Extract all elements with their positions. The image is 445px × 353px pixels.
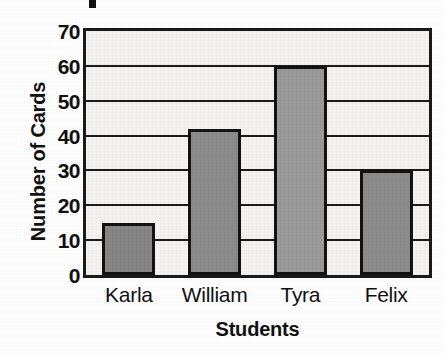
y-tick-label: 40: [34, 125, 80, 146]
bar-karla: [102, 223, 155, 275]
x-tick-label: Tyra: [281, 283, 321, 306]
x-axis-title: Students: [83, 318, 432, 341]
y-tick-label: 20: [34, 195, 80, 216]
bar-william: [188, 129, 241, 275]
y-axis-tick-labels: 010203040506070: [34, 28, 80, 278]
clipped-title-fragment: [89, 0, 96, 8]
gridline: [86, 100, 429, 102]
x-axis-tick-labels: KarlaWilliamTyraFelix: [83, 283, 432, 313]
x-tick-label: Felix: [365, 283, 408, 306]
y-tick-label: 60: [34, 55, 80, 76]
bar-tyra: [274, 66, 327, 275]
y-tick-label: 30: [34, 160, 80, 181]
y-tick-label: 0: [34, 265, 80, 286]
bar-felix: [360, 170, 413, 275]
y-tick-label: 50: [34, 90, 80, 111]
x-tick-label: William: [182, 283, 248, 306]
x-tick-label: Karla: [105, 283, 153, 306]
y-tick-label: 10: [34, 230, 80, 251]
gridline: [86, 65, 429, 67]
plot-inner: [86, 31, 429, 275]
gridline: [86, 135, 429, 137]
y-tick-label: 70: [34, 21, 80, 42]
plot-area: [83, 28, 432, 278]
